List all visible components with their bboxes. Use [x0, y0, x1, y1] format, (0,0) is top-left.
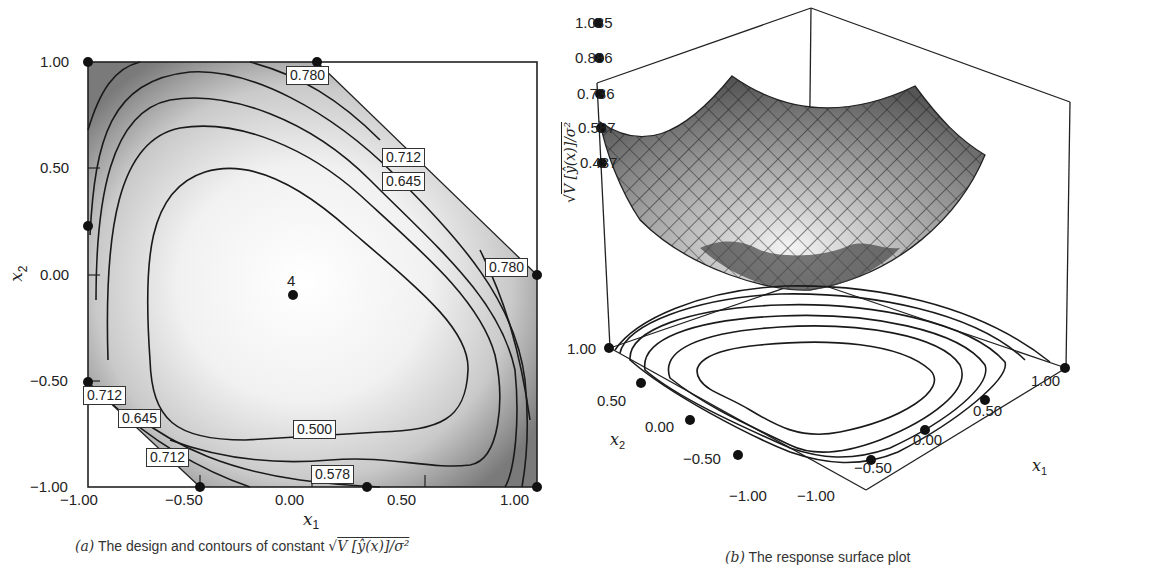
z-tick: 0.587: [578, 119, 616, 136]
contour-label: 0.712: [382, 148, 425, 167]
z-axis-label: √V [ŷ(x)]/σ²: [562, 73, 578, 203]
y-axis-label: x2: [6, 266, 29, 282]
x1-tick: −1.00: [797, 487, 835, 504]
surface-plot-graphic: [580, 0, 1156, 579]
y-tick-1: 1.00: [40, 53, 69, 70]
x2-tick: 0.00: [645, 418, 674, 435]
z-tick: 1.035: [575, 14, 613, 31]
contour-label: 0.712: [146, 448, 189, 467]
contour-label: 0.578: [311, 465, 354, 484]
x-tick-0.5: 0.50: [387, 491, 416, 508]
x2-tick: 0.50: [597, 392, 626, 409]
z-tick: 0.437: [580, 154, 618, 171]
center-replicate-count: 4: [287, 272, 295, 289]
caption-b: (b) The response surface plot: [725, 549, 910, 565]
panel-b-surface-plot: 1.035 0.886 0.736 0.587 0.437 √V [ŷ(x)]/…: [580, 0, 1156, 579]
z-tick: 0.886: [575, 49, 613, 66]
x2-tick: 1.00: [567, 340, 596, 357]
caption-a: (a) The design and contours of constant …: [75, 538, 409, 554]
x2-tick: −0.50: [683, 450, 721, 467]
x2-axis-label: x2: [610, 430, 625, 451]
x1-tick: −0.50: [854, 459, 892, 476]
x-tick-neg0.5: −0.50: [165, 491, 203, 508]
x1-tick: 0.50: [973, 402, 1002, 419]
contour-label: 0.780: [485, 258, 528, 277]
y-tick-0.5: 0.50: [40, 159, 69, 176]
x1-tick: 1.00: [1031, 372, 1060, 389]
contour-label: 0.645: [118, 409, 161, 428]
x2-tick: −1.00: [729, 487, 767, 504]
y-tick-neg0.5: −0.50: [30, 372, 68, 389]
x1-tick: 0.00: [913, 431, 942, 448]
contour-label: 0.780: [286, 66, 329, 85]
x-tick-1: 1.00: [500, 491, 529, 508]
y-tick-0: 0.00: [40, 266, 69, 283]
contour-label: 0.712: [83, 386, 126, 405]
x-axis-label: x1: [303, 509, 319, 532]
z-tick: 0.736: [577, 85, 615, 102]
contour-label: 0.500: [293, 420, 336, 439]
contour-label: 0.645: [382, 172, 425, 191]
x-tick-neg1: −1.00: [60, 491, 98, 508]
x1-axis-label: x1: [1032, 456, 1047, 477]
x-tick-0: 0.00: [275, 491, 304, 508]
panel-a-contour-plot: 1.00 0.50 0.00 −0.50 −1.00 −1.00 −0.50 0…: [0, 0, 580, 579]
